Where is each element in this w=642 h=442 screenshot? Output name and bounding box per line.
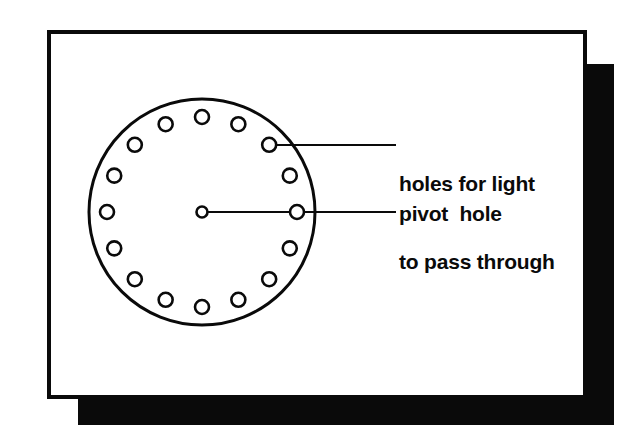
pivot-hole-label: pivot hole (399, 201, 502, 227)
holes-label-line2: to pass through (399, 249, 555, 275)
holes-label-line1: holes for light (399, 171, 555, 197)
figure-root: holes for light to pass through pivot ho… (0, 0, 642, 442)
